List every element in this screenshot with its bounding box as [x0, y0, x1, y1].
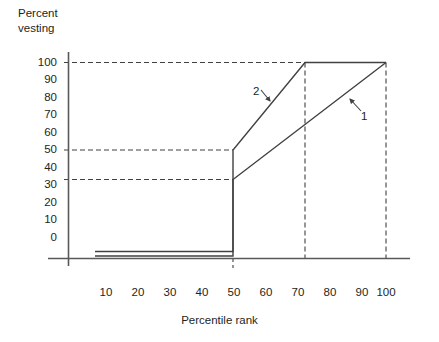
- reference-lines: [64, 63, 386, 269]
- series-curve-2: [95, 63, 386, 252]
- annotation-arrow-1: [350, 99, 361, 111]
- annotation-arrow-2: [261, 90, 270, 101]
- series-curve-1: [95, 63, 386, 257]
- plot-canvas: [0, 0, 439, 342]
- axes: [48, 52, 410, 266]
- chart-figure: Percentvesting 100 90 80 70 60 50 40 30 …: [0, 0, 439, 342]
